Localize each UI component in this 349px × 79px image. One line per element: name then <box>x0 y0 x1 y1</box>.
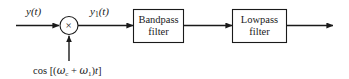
input-signal-label: y(t) <box>26 6 41 17</box>
block-diagram: y(t) y1(t) × Bandpass filter Lowpass fil… <box>0 0 349 79</box>
bandpass-filter-label: Bandpass filter <box>134 14 184 38</box>
bandpass-filter-line1: Bandpass <box>134 14 184 26</box>
cos-function: cos <box>33 65 47 76</box>
multiply-icon: × <box>66 20 72 31</box>
osc-close-bracket: ] <box>98 65 102 76</box>
oscillator-expression-label: cos [(ωc + ω1)t] <box>33 65 101 78</box>
omega-1: ω <box>79 64 88 76</box>
intermediate-signal-tail: (t) <box>99 5 109 17</box>
lowpass-filter-line1: Lowpass <box>233 14 287 26</box>
bandpass-filter-line2: filter <box>134 26 184 38</box>
intermediate-signal-label: y1(t) <box>90 6 109 18</box>
omega-c: ω <box>57 64 66 76</box>
osc-open-bracket: [( <box>50 65 57 76</box>
lowpass-filter-line2: filter <box>233 26 287 38</box>
lowpass-filter-label: Lowpass filter <box>233 14 287 38</box>
